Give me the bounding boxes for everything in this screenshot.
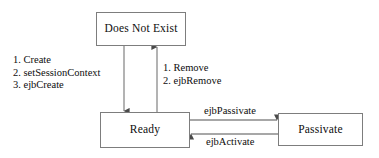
state-node-does-not-exist[interactable]: Does Not Exist	[96, 12, 186, 46]
remove-step-1: 1. Remove	[163, 62, 221, 75]
transition-label-remove-sequence: 1. Remove 2. ejbRemove	[163, 62, 221, 87]
create-step-1: 1. Create	[13, 54, 101, 67]
state-node-passivate[interactable]: Passivate	[278, 113, 363, 146]
state-label-ready: Ready	[130, 124, 160, 136]
state-diagram: Does Not Exist Ready Passivate 1. Create…	[0, 0, 379, 158]
create-step-3: 3. ejbCreate	[13, 79, 101, 92]
state-label-passivate: Passivate	[298, 124, 343, 136]
transition-label-create-sequence: 1. Create 2. setSessionContext 3. ejbCre…	[13, 54, 101, 92]
remove-step-2: 2. ejbRemove	[163, 75, 221, 88]
create-step-2: 2. setSessionContext	[13, 67, 101, 80]
state-label-does-not-exist: Does Not Exist	[104, 23, 177, 35]
transition-label-ejb-passivate: ejbPassivate	[204, 105, 256, 118]
state-node-ready[interactable]: Ready	[100, 112, 190, 148]
transition-label-ejb-activate: ejbActivate	[206, 136, 254, 149]
